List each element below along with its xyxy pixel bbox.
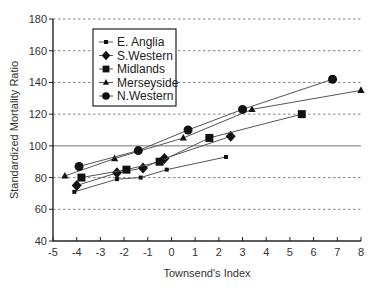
legend-label: E. Anglia — [117, 35, 165, 49]
x-tick-label: 7 — [334, 246, 340, 258]
small-square-marker-icon — [72, 190, 76, 194]
circle-marker-icon — [75, 162, 84, 171]
diamond-marker-icon — [112, 167, 122, 178]
y-tick-label: 100 — [29, 140, 47, 152]
legend-label: Midlands — [117, 62, 165, 76]
circle-marker-icon — [102, 92, 110, 100]
y-tick-label: 160 — [29, 45, 47, 57]
x-tick-label: -4 — [72, 246, 82, 258]
small-square-marker-icon — [224, 155, 228, 159]
small-square-marker-icon — [165, 168, 169, 172]
square-marker-icon — [205, 134, 213, 142]
diamond-marker-icon — [72, 180, 82, 191]
y-tick-label: 40 — [35, 235, 47, 247]
y-tick-label: 80 — [35, 172, 47, 184]
small-square-marker-icon — [104, 40, 108, 44]
square-marker-icon — [298, 110, 306, 118]
x-tick-label: 3 — [239, 246, 245, 258]
circle-marker-icon — [184, 126, 193, 135]
x-tick-label: -3 — [95, 246, 105, 258]
y-tick-label: 120 — [29, 108, 47, 120]
y-tick-label: 60 — [35, 203, 47, 215]
square-marker-icon — [156, 158, 164, 166]
x-tick-label: 6 — [311, 246, 317, 258]
x-tick-label: -5 — [48, 246, 58, 258]
y-tick-label: 140 — [29, 76, 47, 88]
legend: E. AngliaS.WesternMidlandsMerseysideN.We… — [93, 29, 179, 106]
small-square-marker-icon — [139, 176, 143, 180]
x-axis-title: Townsend's Index — [163, 267, 251, 279]
x-tick-label: 1 — [192, 246, 198, 258]
legend-label: S.Western — [117, 49, 173, 63]
series-e-anglia — [72, 155, 228, 194]
x-tick-label: 2 — [216, 246, 222, 258]
x-tick-label: 0 — [168, 246, 174, 258]
square-marker-icon — [122, 166, 130, 174]
diamond-marker-icon — [138, 163, 148, 174]
y-axis-title: Standardized Mortality Ratio — [8, 61, 20, 199]
x-tick-label: -2 — [119, 246, 129, 258]
circle-marker-icon — [328, 75, 337, 84]
x-tick-label: 4 — [263, 246, 269, 258]
x-tick-label: 5 — [287, 246, 293, 258]
square-marker-icon — [77, 174, 85, 182]
square-marker-icon — [103, 66, 110, 73]
x-tick-label: 8 — [358, 246, 364, 258]
y-tick-label: 180 — [29, 13, 47, 25]
circle-marker-icon — [134, 146, 143, 155]
legend-label: N.Western — [117, 89, 173, 103]
circle-marker-icon — [238, 105, 247, 114]
x-tick-label: -1 — [143, 246, 153, 258]
axes: 406080100120140160180-5-4-3-2-1012345678 — [29, 13, 364, 258]
legend-label: Merseyside — [117, 76, 179, 90]
triangle-marker-icon — [357, 86, 364, 93]
chart-canvas: 406080100120140160180-5-4-3-2-1012345678… — [0, 0, 378, 289]
